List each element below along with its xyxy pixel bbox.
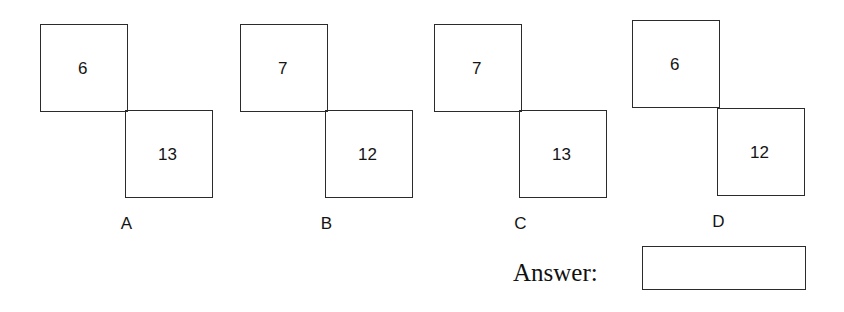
option-d-bottom-square: [717, 108, 805, 196]
worksheet-canvas: 6 13 A 7 12 B 7 13 C 6 12 D Answer:: [0, 0, 844, 312]
answer-row: Answer:: [505, 240, 825, 300]
answer-label: Answer:: [513, 260, 598, 285]
option-c-top-square: [434, 24, 522, 112]
option-d-letter: D: [632, 213, 805, 230]
option-a-bottom-square: [125, 110, 213, 198]
option-group-c[interactable]: 7 13 C: [434, 0, 607, 240]
option-group-a[interactable]: 6 13 A: [40, 0, 213, 240]
option-a-letter: A: [40, 215, 213, 232]
option-b-top-square: [240, 24, 328, 112]
option-d-top-square: [632, 20, 720, 108]
option-b-letter: B: [240, 215, 413, 232]
option-b-bottom-square: [325, 110, 413, 198]
option-c-bottom-square: [519, 110, 607, 198]
option-group-b[interactable]: 7 12 B: [240, 0, 413, 240]
option-group-d[interactable]: 6 12 D: [632, 0, 805, 240]
answer-input-box[interactable]: [642, 246, 806, 290]
option-c-letter: C: [434, 215, 607, 232]
option-a-top-square: [40, 24, 128, 112]
